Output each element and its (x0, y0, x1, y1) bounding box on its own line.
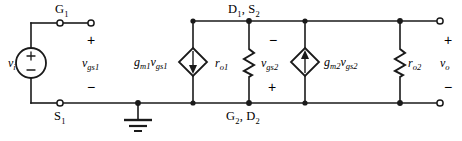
terminal-output-positive[interactable] (437, 18, 443, 24)
ground-symbol (124, 120, 152, 131)
vgs2-label: vgs2 (261, 57, 278, 72)
resistor-ro2-symbol (395, 49, 405, 77)
vo-label: vo (440, 57, 450, 72)
vo-plus-sign: + (444, 33, 452, 47)
resistor-ro1-symbol (244, 49, 254, 77)
terminal-output-negative[interactable] (437, 100, 443, 106)
node-label-source1: S1 (54, 110, 66, 125)
junction-dot-d1s2 (246, 18, 252, 24)
node-label-gate2-drain2: G2, D2 (226, 110, 260, 125)
junction-dot-ro2-bottom (397, 100, 403, 106)
junction-dot-dep2-top (302, 18, 307, 23)
vgs2-minus-sign: − (269, 33, 277, 47)
resistor-ro2-label: ro2 (408, 57, 421, 72)
junction-dot-d1s2-left (190, 18, 195, 23)
junction-dot-g2d2 (246, 100, 252, 106)
junction-dot-ground (135, 100, 141, 106)
junction-dot-ro2-top (397, 18, 403, 24)
dependent-source-1-label: gm1vgs1 (134, 56, 168, 71)
circuit-diagram: G1 S1 D1, S2 G2, D2 vi + vgs1 − gm1vgs1 … (0, 0, 462, 141)
node-label-drain1-source2: D1, S2 (228, 3, 260, 18)
vgs1-minus-sign: − (87, 80, 95, 94)
terminal-gate1-outer[interactable] (88, 20, 94, 26)
junction-dot-dep2-bottom (302, 100, 307, 105)
resistor-ro1-label: ro1 (215, 57, 228, 72)
junction-dot-dep1-bottom (190, 100, 195, 105)
vgs1-label: vgs1 (82, 57, 99, 72)
vgs1-plus-sign: + (87, 33, 95, 47)
dependent-source-2-label: gm2vgs2 (324, 56, 358, 71)
terminal-source1[interactable] (57, 100, 63, 106)
node-label-gate1: G1 (55, 3, 69, 18)
input-source-label: vi (8, 57, 16, 72)
terminal-gate1-inner[interactable] (57, 20, 63, 26)
vgs2-plus-sign: + (268, 80, 276, 94)
vo-minus-sign: − (444, 80, 452, 94)
